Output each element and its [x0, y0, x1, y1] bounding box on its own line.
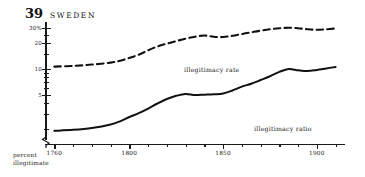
series-label-rate: illegitimacy rate: [184, 66, 240, 73]
x-tick-label: 1850: [215, 150, 231, 156]
x-tick-label: 1800: [121, 150, 137, 156]
figure-header: 39 SWEDEN: [25, 6, 96, 21]
figure-number: 39: [25, 6, 43, 21]
series-illegitimacy-ratio: [54, 67, 335, 131]
y-axis-caption-line2: illegitimate: [13, 159, 49, 167]
figure-illegitimacy-sweden: 39 SWEDEN 5102030% 1760180018501900 ille…: [0, 0, 365, 177]
y-axis-caption-line1: percent: [13, 151, 49, 159]
y-axis-caption: percent illegitimate: [13, 151, 49, 167]
plot-area: 5102030% 1760180018501900 illegitimacy r…: [45, 22, 345, 145]
page-title: SWEDEN: [50, 11, 96, 20]
y-tick-label: 5: [38, 92, 42, 98]
series-illegitimacy-rate: [54, 28, 335, 67]
x-tick-label: 1900: [309, 150, 325, 156]
series-label-ratio: illegitimacy ratio: [254, 125, 312, 132]
y-tick-label: 20: [34, 40, 42, 46]
y-tick-label: 30%: [29, 25, 42, 31]
y-tick-label: 10: [34, 66, 42, 72]
